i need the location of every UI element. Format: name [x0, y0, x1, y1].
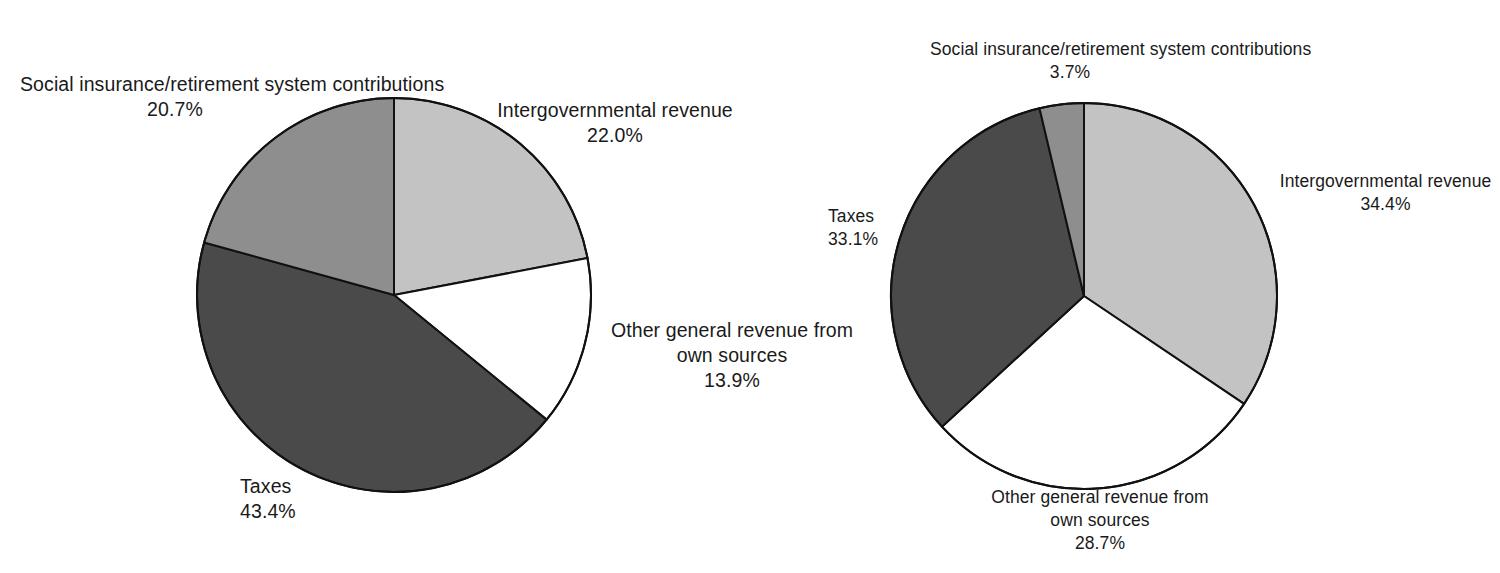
right-label-social-line1: Social insurance/retirement	[930, 39, 1145, 59]
right-label-taxes: Taxes 33.1%	[828, 205, 978, 251]
left-label-intergovernmental: Intergovernmental revenue 22.0%	[470, 98, 760, 148]
right-label-social-line2: system contributions	[1150, 39, 1312, 59]
right-label-taxes-pct: 33.1%	[828, 228, 978, 251]
right-label-social-pct: 3.7%	[930, 61, 1210, 84]
left-label-taxes-line1: Taxes	[240, 475, 291, 497]
right-label-inter-line1: Intergovernmental revenue	[1280, 171, 1492, 191]
left-label-taxes: Taxes 43.4%	[240, 474, 460, 524]
left-label-social-insurance: Social insurance/retirement system contr…	[20, 72, 330, 122]
left-label-social-line2: system contributions	[265, 73, 445, 95]
pie-chart-figure: Social insurance/retirement system contr…	[0, 0, 1500, 573]
left-label-social-pct: 20.7%	[20, 97, 330, 122]
right-label-social-insurance: Social insurance/retirement system contr…	[930, 38, 1210, 84]
right-label-other-general-revenue: Other general revenue from own sources 2…	[955, 486, 1245, 555]
left-label-inter-line1: Intergovernmental revenue	[497, 99, 733, 121]
right-label-other-line2: own sources	[955, 509, 1245, 532]
right-label-taxes-line1: Taxes	[828, 206, 874, 226]
left-label-inter-pct: 22.0%	[470, 123, 760, 148]
left-label-taxes-pct: 43.4%	[240, 499, 460, 524]
right-label-other-pct: 28.7%	[955, 532, 1245, 555]
left-pie-panel: Social insurance/retirement system contr…	[0, 0, 860, 573]
right-label-other-line1: Other general revenue from	[991, 487, 1209, 507]
right-label-intergovernmental: Intergovernmental revenue 34.4%	[1268, 170, 1500, 216]
right-label-inter-pct: 34.4%	[1268, 193, 1500, 216]
left-label-social-line1: Social insurance/retirement	[20, 73, 259, 95]
